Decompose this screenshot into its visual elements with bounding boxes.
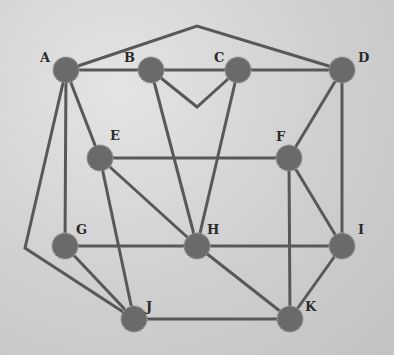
node-circle: [53, 57, 79, 83]
graph-diagram: ABCDEFGHIJK: [0, 0, 394, 355]
edge-F-I: [289, 158, 342, 246]
node-C: C: [214, 50, 251, 83]
edge-E-J: [100, 158, 134, 319]
edge-A-D-bent: [66, 26, 342, 70]
node-circle: [52, 233, 78, 259]
node-label: F: [276, 129, 286, 144]
node-label: H: [207, 222, 219, 237]
node-B: B: [124, 50, 164, 83]
node-D: D: [329, 50, 369, 83]
node-label: C: [214, 50, 224, 65]
node-circle: [138, 57, 164, 83]
node-F: F: [276, 129, 302, 171]
node-circle: [329, 57, 355, 83]
node-circle: [225, 57, 251, 83]
node-label: B: [124, 50, 135, 65]
node-K: K: [277, 299, 317, 332]
node-label: G: [76, 222, 87, 237]
node-label: D: [358, 50, 369, 65]
edge-F-K: [289, 158, 290, 319]
graph-canvas: ABCDEFGHIJK: [0, 0, 394, 355]
node-A: A: [39, 50, 79, 83]
node-circle: [329, 233, 355, 259]
node-label: J: [145, 299, 152, 314]
node-label: I: [358, 222, 364, 237]
node-circle: [121, 306, 147, 332]
edge-A-E: [66, 70, 100, 158]
node-circle: [276, 145, 302, 171]
node-circle: [277, 306, 303, 332]
edge-H-K: [197, 246, 290, 319]
edge-D-F: [289, 70, 342, 158]
node-label: E: [110, 128, 120, 143]
node-J: J: [121, 299, 152, 332]
node-circle: [87, 145, 113, 171]
node-I: I: [329, 222, 364, 259]
edge-B-C-bent: [151, 70, 238, 107]
node-label: A: [39, 50, 51, 65]
node-G: G: [52, 222, 87, 259]
edge-A-G: [65, 70, 66, 246]
node-label: K: [305, 299, 317, 314]
